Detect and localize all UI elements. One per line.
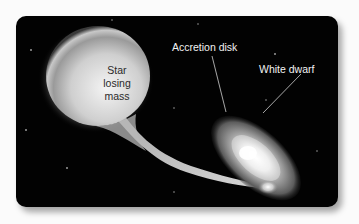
accretion-disk-leader: [212, 56, 226, 112]
star-label-line-1: Star: [87, 64, 147, 77]
diagram-panel: Star losing mass Accretion disk White dw…: [16, 16, 338, 207]
white-dwarf: [239, 146, 257, 160]
white-dwarf-leader: [263, 74, 301, 113]
star-label-line-3: mass: [87, 90, 147, 103]
accretion-disk-label: Accretion disk: [172, 41, 237, 54]
white-dwarf-label: White dwarf: [259, 63, 314, 76]
hot-spot: [258, 180, 278, 194]
star-label: Star losing mass: [87, 64, 147, 103]
star-label-line-2: losing: [87, 77, 147, 90]
